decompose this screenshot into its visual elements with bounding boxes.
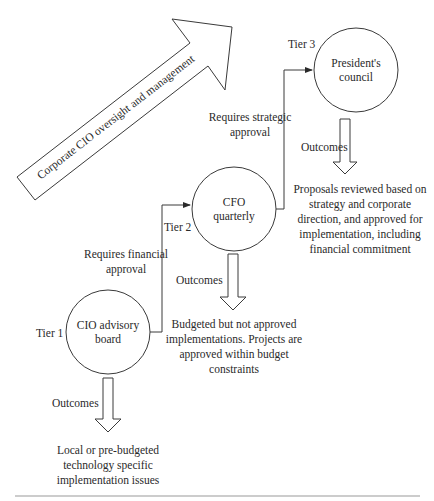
outcome-line: Proposals reviewed based on — [290, 182, 430, 197]
tier2-outcomes-label: Outcomes — [176, 273, 223, 287]
tier1-node-text: CIO advisory board — [73, 318, 143, 346]
connector-label-line: approval — [66, 262, 186, 277]
tier3-node-text: President's council — [321, 56, 391, 84]
outcome-line: direction, and approved for — [290, 212, 430, 227]
tier2-node-text: CFO quarterly — [199, 195, 269, 223]
tier1-outcomes-label: Outcomes — [52, 396, 99, 410]
connector-label-line: Requires strategic — [190, 110, 310, 125]
outcome-line: implementation, including — [290, 227, 430, 242]
connector-label-financial: Requires financial approval — [66, 247, 186, 277]
tier1-outcome-text: Local or pre-budgeted technology specifi… — [38, 443, 178, 488]
outcome-line: strategy and corporate — [290, 197, 430, 212]
tier2-label: Tier 2 — [164, 220, 191, 234]
tier3-label: Tier 3 — [288, 37, 315, 51]
outcome-line: implementation issues — [38, 473, 178, 488]
outcome-line: financial commitment — [290, 242, 430, 257]
tier3-node-line: council — [321, 70, 391, 84]
connector-label-line: approval — [190, 125, 310, 140]
outcome-line: constraints — [164, 362, 304, 377]
connector-label-strategic: Requires strategic approval — [190, 110, 310, 140]
outcome-line: technology specific — [38, 458, 178, 473]
tier3-node-line: President's — [321, 56, 391, 70]
tier3-outcome-text: Proposals reviewed based on strategy and… — [290, 182, 430, 257]
tier2-node-line: quarterly — [199, 209, 269, 223]
connector-label-line: Requires financial — [66, 247, 186, 262]
diagram-canvas: Corporate CIO oversight and management T… — [0, 0, 434, 501]
tier3-outcomes-label: Outcomes — [301, 140, 348, 154]
tier1-label: Tier 1 — [36, 326, 63, 340]
tier2-node-line: CFO — [199, 195, 269, 209]
tier2-outcome-text: Budgeted but not approved implementation… — [164, 317, 304, 377]
tier1-node-line: board — [73, 332, 143, 346]
outcome-line: approved within budget — [164, 347, 304, 362]
outcome-line: implementations. Projects are — [164, 332, 304, 347]
outcome-line: Budgeted but not approved — [164, 317, 304, 332]
tier1-node-line: CIO advisory — [73, 318, 143, 332]
oversight-arrow-label: Corporate CIO oversight and management — [35, 52, 198, 182]
outcome-line: Local or pre-budgeted — [38, 443, 178, 458]
tier2-outcomes-arrow-icon — [220, 254, 246, 310]
